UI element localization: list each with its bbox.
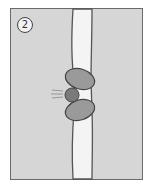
molecule <box>65 88 79 102</box>
membrane-diagram <box>0 0 148 190</box>
motion-lines <box>51 90 63 98</box>
